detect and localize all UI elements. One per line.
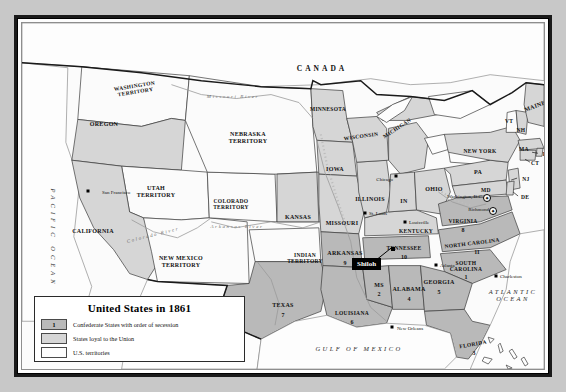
legend-swatch-number: 1 <box>53 322 56 328</box>
map-page: .cf{fill:#b9b9b9;stroke:#3a3a3a;stroke-w… <box>0 0 566 392</box>
legend-text-union: States loyal to the Union <box>73 335 134 342</box>
legend-text-confederate: Confederate States with order of secessi… <box>73 321 178 328</box>
map-legend: United States in 1861 1 Confederate Stat… <box>34 296 245 362</box>
legend-swatch-confederate: 1 <box>41 319 67 330</box>
legend-row-union: States loyal to the Union <box>41 332 238 345</box>
battle-label-shiloh: Shiloh <box>352 258 381 270</box>
legend-row-confederate: 1 Confederate States with order of seces… <box>41 318 238 331</box>
legend-text-territory: U.S. territories <box>73 349 110 356</box>
legend-row-territory: U.S. territories <box>41 346 238 359</box>
legend-swatch-union <box>41 333 67 344</box>
legend-swatch-territory <box>41 347 67 358</box>
map-canvas: .cf{fill:#b9b9b9;stroke:#3a3a3a;stroke-w… <box>21 22 545 370</box>
legend-title: United States in 1861 <box>41 302 238 314</box>
